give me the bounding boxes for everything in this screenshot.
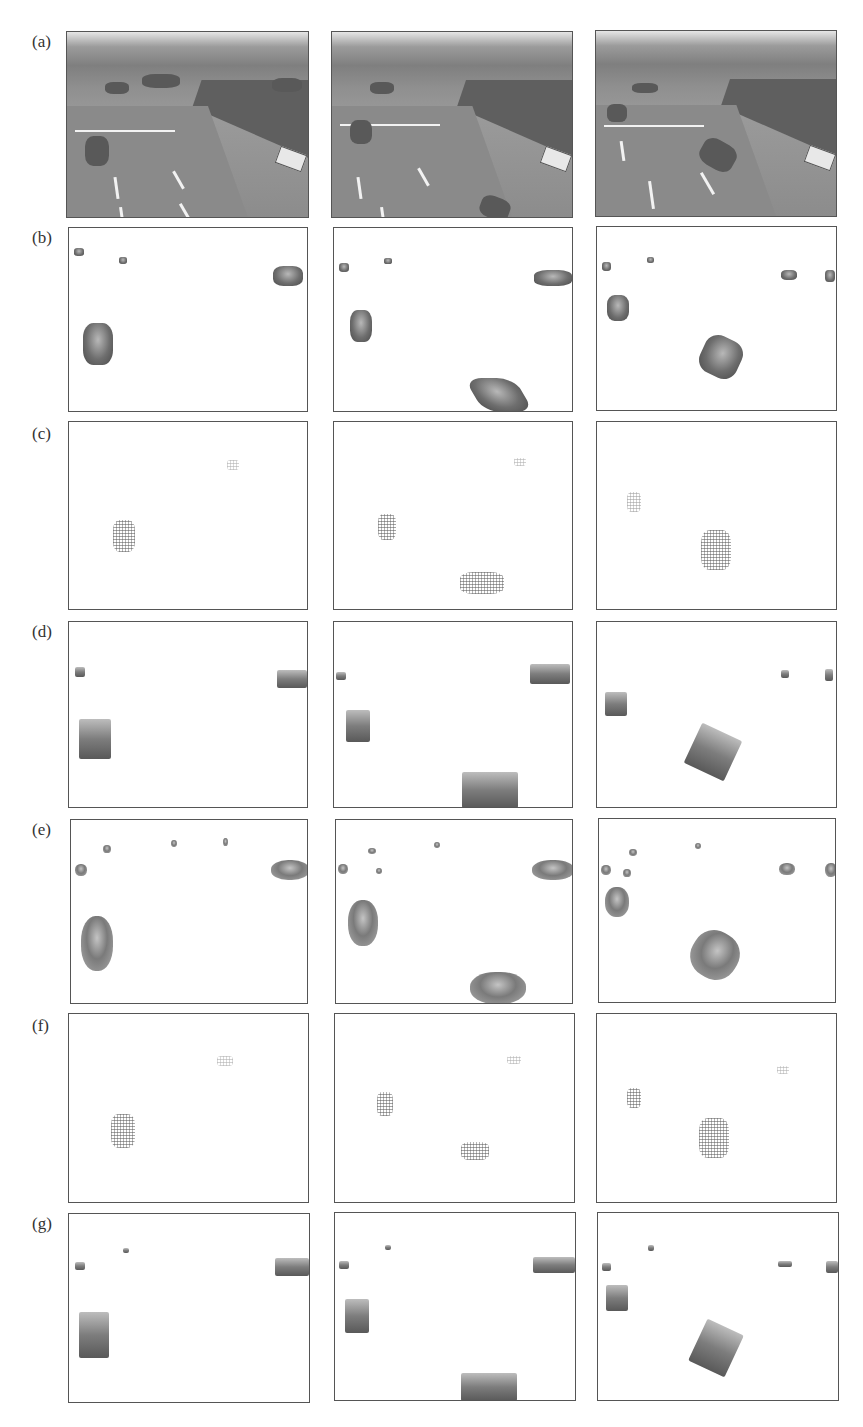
vehicle-blob: [699, 1118, 729, 1158]
scene-frame-a3: [595, 30, 837, 217]
row-label-a: (a): [32, 32, 51, 52]
vehicle-blob: [605, 692, 627, 716]
vehicle-blob: [605, 887, 629, 917]
vehicle-blob: [123, 1248, 129, 1253]
row-label-b: (b): [32, 228, 52, 248]
segmentation-frame-c1: [68, 421, 308, 610]
vehicle-blob: [275, 1258, 309, 1276]
scene-frame-a2: [331, 31, 573, 218]
vehicle-blob: [368, 848, 376, 854]
vehicle-blob: [346, 710, 370, 742]
vehicle-blob: [781, 270, 797, 280]
row-label-c: (c): [32, 424, 51, 444]
traffic-scene-image: [596, 31, 836, 216]
vehicle-blob: [273, 266, 303, 286]
segmentation-frame-d3: [596, 621, 837, 808]
vehicle-blob: [694, 330, 747, 383]
vehicle-blob: [376, 868, 382, 874]
vehicle-blob: [601, 865, 611, 875]
vehicle-blob: [627, 492, 641, 512]
vehicle-blob: [74, 248, 84, 256]
vehicle-blob: [79, 1312, 109, 1358]
vehicle-blob: [111, 1114, 135, 1148]
vehicle-blob: [339, 263, 349, 272]
vehicle-blob: [378, 514, 396, 540]
vehicle-blob: [682, 922, 748, 988]
vehicle-blob: [113, 520, 135, 552]
vehicle-blob: [377, 1092, 393, 1116]
vehicle-blob: [350, 310, 372, 342]
vehicle-blob: [385, 1245, 391, 1250]
segmentation-frame-e1: [70, 819, 308, 1004]
vehicle-blob: [75, 667, 85, 677]
vehicle-blob: [533, 1257, 575, 1273]
vehicle-blob: [825, 863, 836, 877]
segmentation-frame-e3: [598, 818, 836, 1003]
vehicle-blob: [470, 972, 526, 1004]
segmentation-frame-b3: [596, 226, 837, 411]
segmentation-frame-d2: [333, 621, 573, 808]
vehicle-blob: [339, 1261, 349, 1269]
segmentation-frame-g1: [68, 1213, 310, 1403]
vehicle-blob: [348, 900, 378, 946]
vehicle-blob: [336, 672, 346, 680]
vehicle-blob: [271, 860, 308, 880]
vehicle-blob: [648, 1245, 654, 1251]
segmentation-frame-b2: [333, 227, 573, 412]
vehicle-blob: [217, 1056, 233, 1066]
vehicle-blob: [464, 378, 534, 412]
vehicle-blob: [119, 257, 127, 264]
vehicle-blob: [75, 1262, 85, 1270]
vehicle-blob: [83, 323, 113, 365]
vehicle-blob: [777, 1066, 789, 1074]
vehicle-blob: [79, 719, 111, 759]
vehicle-blob: [277, 670, 307, 688]
traffic-scene-image: [67, 32, 308, 217]
vehicle-blob: [530, 664, 570, 684]
vehicle-blob: [462, 772, 518, 808]
vehicle-blob: [695, 843, 701, 849]
vehicle-blob: [171, 840, 177, 847]
vehicle-blob: [602, 1263, 611, 1271]
scene-frame-a1: [66, 31, 309, 218]
vehicle-blob: [507, 1056, 521, 1064]
segmentation-frame-e2: [335, 819, 573, 1004]
segmentation-frame-f2: [334, 1013, 575, 1203]
vehicle-blob: [779, 863, 795, 875]
vehicle-blob: [103, 845, 111, 853]
traffic-scene-image: [332, 32, 572, 217]
vehicle-blob: [223, 838, 228, 846]
vehicle-blob: [647, 257, 654, 263]
segmentation-frame-f1: [68, 1013, 309, 1203]
vehicle-blob: [629, 849, 637, 856]
vehicle-blob: [627, 1088, 641, 1108]
vehicle-blob: [338, 864, 348, 874]
vehicle-blob: [684, 723, 742, 781]
vehicle-blob: [778, 1261, 792, 1267]
vehicle-blob: [384, 258, 392, 264]
vehicle-blob: [532, 860, 573, 880]
segmentation-frame-c2: [333, 421, 573, 610]
vehicle-blob: [461, 1142, 489, 1160]
vehicle-blob: [607, 295, 629, 321]
vehicle-blob: [434, 842, 440, 848]
row-label-f: (f): [32, 1016, 49, 1036]
segmentation-frame-g2: [334, 1212, 576, 1401]
vehicle-blob: [227, 460, 239, 470]
segmentation-frame-c3: [596, 421, 837, 610]
segmentation-frame-g3: [597, 1212, 839, 1401]
vehicle-blob: [75, 864, 87, 876]
vehicle-blob: [81, 916, 113, 971]
vehicle-blob: [606, 1285, 628, 1311]
vehicle-blob: [623, 869, 631, 877]
vehicle-blob: [461, 1373, 517, 1401]
vehicle-blob: [534, 270, 572, 286]
vehicle-blob: [825, 270, 835, 282]
vehicle-blob: [781, 670, 789, 678]
segmentation-frame-f3: [596, 1013, 837, 1203]
row-label-e: (e): [32, 820, 51, 840]
row-label-g: (g): [32, 1214, 52, 1234]
vehicle-blob: [688, 1319, 744, 1378]
vehicle-blob: [825, 669, 833, 681]
vehicle-blob: [514, 458, 526, 466]
